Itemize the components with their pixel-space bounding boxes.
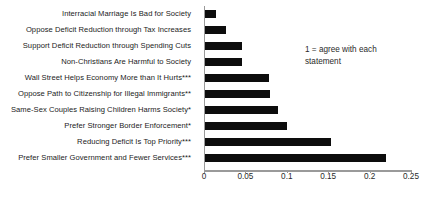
category-label: Prefer Stronger Border Enforcement* [0,118,197,134]
bar [205,10,216,18]
bar-row [204,102,411,118]
category-label: Non-Christians Are Harmful to Society [0,54,197,70]
bar [205,122,287,130]
bar-row [204,6,411,22]
category-label: Support Deficit Reduction through Spendi… [0,38,197,54]
x-tick-label: 0.1 [281,172,292,181]
category-label: Same-Sex Couples Raising Children Harms … [0,102,197,118]
x-tick-label: 0.15 [320,172,336,181]
bar [205,138,331,146]
bar [205,58,242,66]
category-label: Oppose Path to Citizenship for Illegal I… [0,86,197,102]
x-tick-label: 0.05 [237,172,253,181]
category-label: Interracial Marriage Is Bad for Society [0,6,197,22]
x-tick-label: 0 [202,172,207,181]
bar-row [204,70,411,86]
x-tick-label: 0.25 [403,172,419,181]
chart-annotation: 1 = agree with each statement [305,44,420,68]
bar-row [204,118,411,134]
category-label: Reducing Deficit Is Top Priority*** [0,134,197,150]
bar-chart: Interracial Marriage Is Bad for Society … [0,0,426,205]
category-label: Wall Street Helps Economy More than It H… [0,70,197,86]
plot-area [204,6,411,170]
bar [205,74,269,82]
x-axis-ticks: 00.050.10.150.20.25 [0,172,426,192]
bar-row [204,86,411,102]
category-label-column: Interracial Marriage Is Bad for Society … [0,6,197,166]
category-label: Oppose Deficit Reduction through Tax Inc… [0,22,197,38]
bar [205,154,386,162]
bar-row [204,150,411,166]
bar-row [204,134,411,150]
bar-row [204,22,411,38]
bar [205,106,278,114]
x-tick-label: 0.2 [364,172,375,181]
annotation-line-1: 1 = agree with each [305,44,420,56]
category-label: Prefer Smaller Government and Fewer Serv… [0,150,197,166]
annotation-line-2: statement [305,56,420,68]
bar [205,26,226,34]
bar [205,42,242,50]
bar [205,90,270,98]
